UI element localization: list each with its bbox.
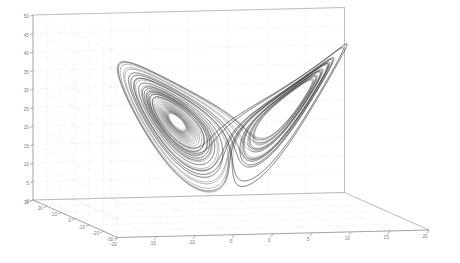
tick-x bbox=[310, 233, 312, 236]
gridline-floor-y bbox=[103, 224, 415, 232]
tick-x bbox=[427, 230, 429, 233]
lorenz-attractor-figure: 051015202530354045503020100-10-20-30-20-… bbox=[0, 0, 460, 263]
tick-label-z: 30 bbox=[24, 88, 30, 93]
tick-z bbox=[30, 34, 33, 35]
tick-x bbox=[193, 236, 195, 239]
tick-label-z: 40 bbox=[24, 51, 30, 56]
tick-z bbox=[30, 182, 33, 183]
tick-label-x: 0 bbox=[268, 238, 271, 243]
tick-z bbox=[30, 52, 33, 53]
tick-z bbox=[30, 145, 33, 146]
tick-label-y: 30 bbox=[24, 200, 30, 205]
tick-x bbox=[154, 237, 156, 240]
tick-label-x: -10 bbox=[188, 240, 195, 245]
gridline-floor-y bbox=[47, 199, 359, 207]
tick-label-z: 50 bbox=[24, 14, 30, 19]
tick-label-z: 10 bbox=[24, 162, 30, 167]
tick-label-z: 15 bbox=[24, 144, 30, 149]
tick-label-y: -10 bbox=[78, 225, 85, 230]
tick-y bbox=[72, 219, 75, 221]
gridline-floor-y bbox=[89, 218, 401, 226]
gridline-floor-x bbox=[267, 194, 352, 232]
tick-label-x: 20 bbox=[423, 234, 429, 239]
tick-label-x: -15 bbox=[149, 241, 156, 246]
tick-label-z: 45 bbox=[24, 33, 30, 38]
tick-label-x: -20 bbox=[110, 242, 117, 247]
tick-label-y: -20 bbox=[93, 231, 100, 236]
gridline-floor-y bbox=[61, 205, 373, 213]
tick-label-y: 10 bbox=[52, 212, 58, 217]
tick-label-x: 5 bbox=[307, 237, 310, 242]
gridline-floor-x bbox=[189, 196, 274, 234]
tick-z bbox=[30, 126, 33, 127]
tick-z bbox=[30, 108, 33, 109]
tick-y bbox=[58, 213, 61, 215]
tick-y bbox=[86, 225, 89, 227]
tick-x bbox=[271, 234, 273, 237]
tick-label-z: 5 bbox=[26, 181, 29, 186]
tick-label-z: 20 bbox=[24, 125, 30, 130]
tick-label-x: -5 bbox=[228, 239, 233, 244]
tick-z bbox=[30, 71, 33, 72]
tick-label-z: 35 bbox=[24, 70, 30, 75]
plot-canvas: 051015202530354045503020100-10-20-30-20-… bbox=[0, 0, 460, 263]
tick-x bbox=[349, 232, 351, 235]
tick-z bbox=[30, 89, 33, 90]
tick-label-y: 20 bbox=[38, 206, 44, 211]
tick-label-x: 10 bbox=[345, 236, 351, 241]
tick-label-y: 0 bbox=[68, 218, 71, 223]
tick-label-z: 25 bbox=[24, 107, 30, 112]
tick-z bbox=[30, 15, 33, 16]
lorenz-trajectory-path bbox=[117, 44, 347, 192]
tick-y bbox=[100, 231, 103, 233]
tick-x bbox=[388, 231, 390, 234]
gridline-floor-x bbox=[228, 195, 313, 233]
tick-x bbox=[232, 235, 234, 238]
tick-y bbox=[44, 206, 47, 208]
tick-y bbox=[30, 200, 33, 202]
tick-z bbox=[30, 163, 33, 164]
tick-label-x: 15 bbox=[384, 235, 390, 240]
